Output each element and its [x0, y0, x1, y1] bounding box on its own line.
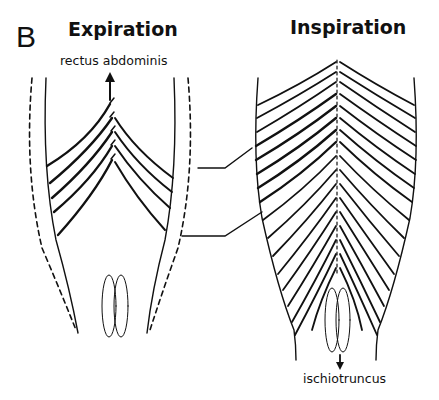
connector-lines: [182, 148, 262, 236]
expiration-vent: [102, 275, 128, 337]
up-arrow-icon: [105, 72, 115, 100]
down-arrow-icon: [336, 355, 344, 370]
inspiration-vent: [325, 288, 350, 352]
expiration-muscle-bands: [47, 98, 173, 235]
diagram-canvas: [0, 0, 439, 400]
